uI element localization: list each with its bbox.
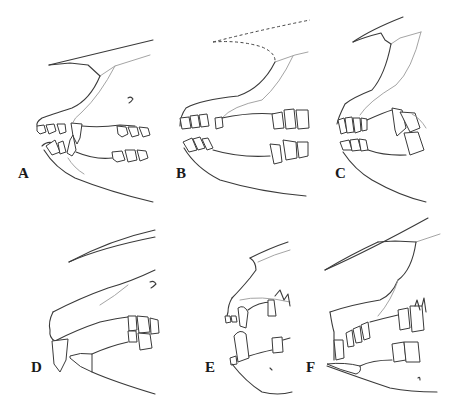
panel-label-f: F xyxy=(306,360,315,375)
panel-label-a: A xyxy=(18,166,29,181)
panel-label-d: D xyxy=(31,360,42,375)
panel-a-drawing xyxy=(37,40,153,202)
panel-e-drawing xyxy=(225,242,292,394)
panel-b-drawing xyxy=(180,20,310,196)
panel-f-drawing xyxy=(325,218,440,392)
panel-c-drawing xyxy=(337,17,426,202)
panel-label-e: E xyxy=(205,360,215,375)
skull-figure: A B C D E F xyxy=(0,0,454,412)
panel-d-drawing xyxy=(49,230,159,394)
panel-label-b: B xyxy=(176,166,186,181)
panel-label-c: C xyxy=(335,166,346,181)
drawings xyxy=(0,0,454,412)
